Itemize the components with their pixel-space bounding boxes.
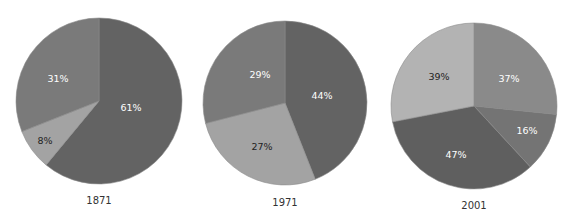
slice-percent-label: 39% <box>428 71 449 82</box>
pie-chart-panel: 61%8%31%187144%27%29%197137%16%47%39%200… <box>0 0 576 220</box>
slice-percent-label: 44% <box>311 90 332 101</box>
slice-percent-label: 27% <box>251 141 272 152</box>
year-label: 2001 <box>461 200 486 211</box>
slice-percent-label: 29% <box>249 69 270 80</box>
slice-percent-label: 8% <box>37 135 52 146</box>
pie-slice <box>474 23 557 114</box>
slice-percent-label: 61% <box>120 102 141 113</box>
pie-chart-1971: 44%27%29%1971 <box>203 21 367 208</box>
pie-chart-1871: 61%8%31%1871 <box>16 18 182 206</box>
pie-chart-2001: 37%16%47%39%2001 <box>391 23 557 211</box>
slice-percent-label: 37% <box>498 73 519 84</box>
year-label: 1871 <box>86 195 111 206</box>
slice-percent-label: 16% <box>516 125 537 136</box>
year-label: 1971 <box>272 197 297 208</box>
pie-charts-svg: 61%8%31%187144%27%29%197137%16%47%39%200… <box>0 0 576 220</box>
slice-percent-label: 31% <box>47 73 68 84</box>
slice-percent-label: 47% <box>445 149 466 160</box>
